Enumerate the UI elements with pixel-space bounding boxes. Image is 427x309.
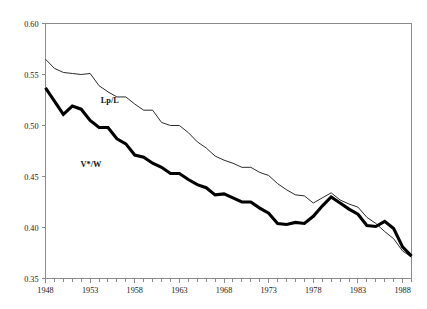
x-tick-label: 1958 (127, 286, 143, 295)
x-tick-label: 1948 (37, 286, 53, 295)
series-label-lpl: Lp/L (101, 96, 120, 105)
y-tick-label: 0.45 (24, 173, 38, 182)
series-line-vw (46, 88, 412, 256)
x-tick-label: 1983 (350, 286, 366, 295)
x-tick-label: 1953 (82, 286, 98, 295)
x-axis-ticks: 194819531958196319681973197819831988 (37, 279, 411, 295)
data-series-group (46, 59, 412, 257)
y-tick-label: 0.60 (24, 20, 38, 29)
series-label-vw: V*/W (81, 160, 103, 169)
series-line-lpl (46, 59, 412, 257)
line-chart: 0.350.400.450.500.550.60 194819531958196… (0, 0, 427, 309)
y-tick-label: 0.35 (24, 275, 38, 284)
y-tick-label: 0.55 (24, 71, 38, 80)
axes-group (46, 24, 412, 279)
y-tick-label: 0.50 (24, 122, 38, 131)
x-tick-label: 1988 (394, 286, 410, 295)
x-tick-label: 1973 (260, 286, 276, 295)
x-tick-label: 1978 (305, 286, 321, 295)
x-tick-label: 1968 (216, 286, 232, 295)
x-tick-label: 1963 (171, 286, 187, 295)
chart-container: 0.350.400.450.500.550.60 194819531958196… (0, 0, 427, 309)
y-tick-label: 0.40 (24, 224, 38, 233)
y-axis-ticks: 0.350.400.450.500.550.60 (24, 20, 45, 284)
